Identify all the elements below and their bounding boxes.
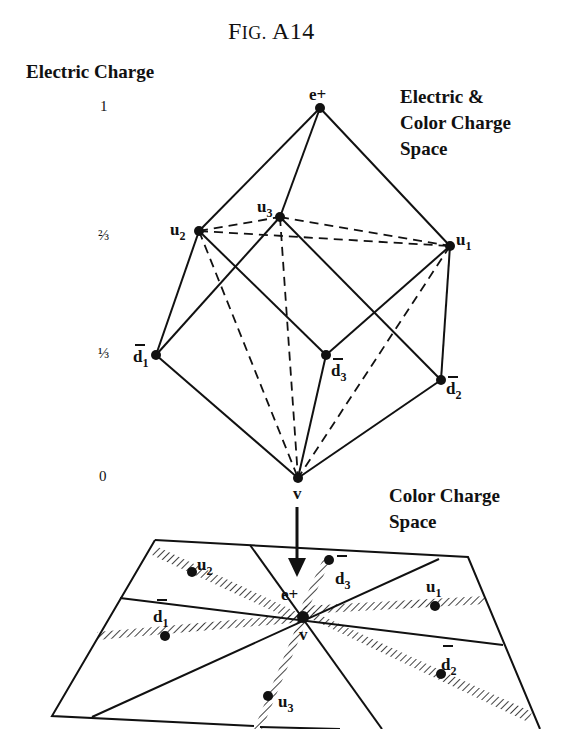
node-eplus-dot bbox=[315, 103, 325, 113]
edge-u3-d2bar bbox=[280, 217, 441, 380]
plane-node-u2 bbox=[187, 567, 197, 577]
edge-u2-d3bar bbox=[199, 231, 326, 355]
edge-u1-d3bar bbox=[326, 246, 450, 355]
charge-space-diagram: e+ u3 u2 u1 d1 d3 d2 v bbox=[0, 0, 567, 729]
label-u1: u1 bbox=[456, 230, 471, 253]
label-d1bar: d1 bbox=[133, 347, 148, 370]
plane-labels: u2 d3 u1 d1 d2 u3 e+ v bbox=[153, 555, 456, 715]
edge-eplus-u1 bbox=[320, 108, 450, 246]
edge-d3bar-v bbox=[298, 355, 326, 478]
label-u2: u2 bbox=[170, 220, 185, 243]
projection-arrow bbox=[288, 507, 306, 577]
node-d3bar-dot bbox=[321, 350, 331, 360]
label-u3: u3 bbox=[257, 197, 272, 220]
center-eplus-v-dot bbox=[297, 611, 309, 623]
edge-eplus-u3 bbox=[280, 108, 320, 217]
node-d1bar-dot bbox=[151, 350, 161, 360]
edge-d1bar-v bbox=[156, 355, 298, 478]
top-cube bbox=[156, 108, 450, 478]
edge-u2-d1bar bbox=[156, 231, 199, 355]
hatch-u1-direction bbox=[303, 596, 485, 614]
dashed-u1-v bbox=[298, 246, 450, 478]
plane-node-d1bar bbox=[160, 631, 170, 641]
plane-label-u1: u1 bbox=[426, 577, 441, 600]
plane-label-eplus: e+ bbox=[281, 585, 298, 604]
node-d2bar-dot bbox=[436, 375, 446, 385]
plane-node-u1 bbox=[430, 601, 440, 611]
edge-u1-d2bar bbox=[441, 246, 450, 380]
label-eplus: e+ bbox=[309, 85, 326, 104]
dashed-u3-v bbox=[280, 217, 298, 478]
edge-d2bar-v bbox=[298, 380, 441, 478]
top-labels: e+ u3 u2 u1 d1 d3 d2 v bbox=[133, 85, 471, 503]
node-u1-dot bbox=[445, 241, 455, 251]
node-u2-dot bbox=[194, 226, 204, 236]
label-d2bar: d2 bbox=[446, 379, 461, 402]
top-nodes bbox=[151, 103, 455, 483]
node-v-dot bbox=[293, 473, 303, 483]
plane-node-u3 bbox=[263, 691, 273, 701]
label-d3bar: d3 bbox=[331, 361, 346, 384]
label-v: v bbox=[293, 484, 302, 503]
plane-label-v: v bbox=[299, 625, 308, 644]
dashed-u2-u1 bbox=[199, 231, 450, 246]
plane-node-d3bar bbox=[324, 555, 334, 565]
hatch-d1bar-direction bbox=[97, 614, 303, 640]
plane-label-u3: u3 bbox=[278, 692, 293, 715]
node-u3-dot bbox=[275, 212, 285, 222]
plane-label-d3bar: d3 bbox=[335, 569, 350, 592]
